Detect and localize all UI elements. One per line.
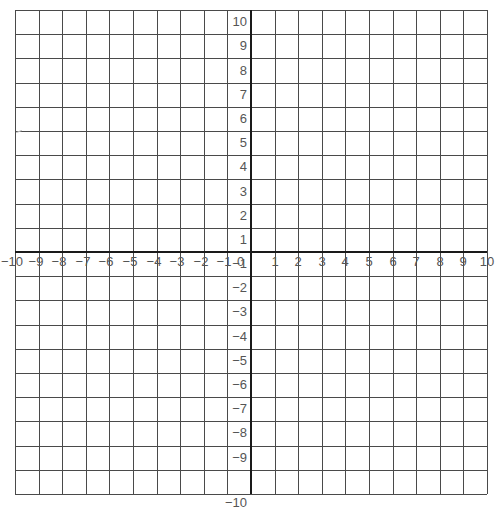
- x-tick-label: −10: [1, 255, 23, 269]
- origin-label: 0: [237, 255, 244, 269]
- y-tick-label: −10: [217, 496, 247, 510]
- x-tick-label: 6: [389, 255, 396, 269]
- grid-line-horizontal: [15, 494, 487, 495]
- x-tick-label: −2: [194, 255, 209, 269]
- x-tick-label: −5: [123, 255, 138, 269]
- y-tick-label: 5: [225, 136, 247, 150]
- y-tick-label: −9: [225, 451, 247, 465]
- y-tick-label: 3: [225, 185, 247, 199]
- x-tick-label: −6: [99, 255, 114, 269]
- y-tick-label: 8: [225, 64, 247, 78]
- y-tick-label: −8: [225, 426, 247, 440]
- y-tick-label: −6: [225, 378, 247, 392]
- x-tick-label: 7: [412, 255, 419, 269]
- y-tick-label: −4: [225, 330, 247, 344]
- x-tick-label: 3: [318, 255, 325, 269]
- x-tick-label: 2: [294, 255, 301, 269]
- y-axis-line: [250, 10, 252, 494]
- x-tick-label: −9: [29, 255, 44, 269]
- y-tick-label: 7: [225, 88, 247, 102]
- x-tick-label: −8: [52, 255, 67, 269]
- y-tick-label: 4: [225, 160, 247, 174]
- y-tick-label: −5: [225, 354, 247, 368]
- x-tick-label: −3: [170, 255, 185, 269]
- x-tick-label: 9: [459, 255, 466, 269]
- y-tick-label: 1: [225, 233, 247, 247]
- y-tick-label: 2: [225, 209, 247, 223]
- x-tick-label: 5: [365, 255, 372, 269]
- x-tick-label: 8: [436, 255, 443, 269]
- grid-line-vertical: [487, 10, 488, 494]
- coordinate-plane: −10−9−8−7−6−5−4−3−2−112345678910 1098765…: [0, 0, 500, 512]
- y-tick-label: −2: [225, 281, 247, 295]
- x-tick-label: 1: [271, 255, 278, 269]
- y-tick-label: −7: [225, 402, 247, 416]
- x-tick-label: 10: [480, 255, 494, 269]
- x-tick-label: −4: [147, 255, 162, 269]
- y-tick-label: 10: [225, 15, 247, 29]
- y-tick-label: −3: [225, 305, 247, 319]
- x-tick-label: 4: [341, 255, 348, 269]
- y-tick-label: 9: [225, 39, 247, 53]
- y-tick-label: 6: [225, 112, 247, 126]
- x-tick-label: −7: [76, 255, 91, 269]
